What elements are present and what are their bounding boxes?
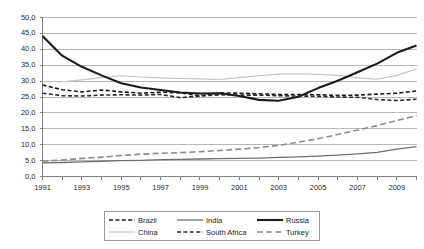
y-axis-tick-label: 5,0 <box>10 156 36 165</box>
y-axis-tick-label: 45,0 <box>10 28 36 37</box>
x-axis-tick-label: 1997 <box>144 183 178 192</box>
x-axis-tick-label: 2009 <box>380 183 414 192</box>
legend-item-india[interactable]: India <box>177 216 257 225</box>
legend-item-turkey[interactable]: Turkey <box>257 228 325 237</box>
legend-label-turkey: Turkey <box>286 228 309 237</box>
legend-grid: Brazil India Russia China South Africa T… <box>109 214 315 238</box>
x-axis-tick-label: 2007 <box>340 183 374 192</box>
y-axis-tick-label: 35,0 <box>10 60 36 69</box>
y-axis-tick-label: 30,0 <box>10 76 36 85</box>
legend-swatch-south-africa-icon <box>177 228 203 236</box>
y-axis-tick-label: 0,0 <box>10 172 36 181</box>
x-axis-tick-label: 2005 <box>301 183 335 192</box>
x-axis-tick-label: 2001 <box>222 183 256 192</box>
series-line-turkey <box>43 115 417 161</box>
line-chart: Brazil India Russia China South Africa T… <box>0 0 424 249</box>
y-axis-tick-label: 50,0 <box>10 13 36 22</box>
series-line-russia <box>43 36 417 101</box>
legend-label-china: China <box>138 228 158 237</box>
chart-legend: Brazil India Russia China South Africa T… <box>104 211 320 241</box>
legend-label-brazil: Brazil <box>138 216 157 225</box>
y-axis-tick-label: 20,0 <box>10 108 36 117</box>
x-axis-tick-label: 1993 <box>65 183 99 192</box>
legend-label-south-africa: South Africa <box>206 228 246 237</box>
legend-label-india: India <box>206 216 222 225</box>
y-axis-tick-label: 15,0 <box>10 124 36 133</box>
y-axis-tick-label: 25,0 <box>10 92 36 101</box>
legend-swatch-brazil-icon <box>109 216 135 224</box>
legend-label-russia: Russia <box>286 216 309 225</box>
legend-swatch-turkey-icon <box>257 228 283 236</box>
legend-item-south-africa[interactable]: South Africa <box>177 228 257 237</box>
legend-swatch-russia-icon <box>257 216 283 224</box>
legend-item-brazil[interactable]: Brazil <box>109 216 177 225</box>
legend-item-china[interactable]: China <box>109 228 177 237</box>
legend-swatch-india-icon <box>177 216 203 224</box>
x-axis-tick-label: 1999 <box>183 183 217 192</box>
y-axis-tick-label: 10,0 <box>10 140 36 149</box>
legend-swatch-china-icon <box>109 228 135 236</box>
x-axis-tick-label: 1991 <box>26 183 60 192</box>
y-axis-tick-label: 40,0 <box>10 44 36 53</box>
x-axis-tick-label: 1995 <box>104 183 138 192</box>
x-axis-tick-label: 2003 <box>262 183 296 192</box>
legend-item-russia[interactable]: Russia <box>257 216 325 225</box>
